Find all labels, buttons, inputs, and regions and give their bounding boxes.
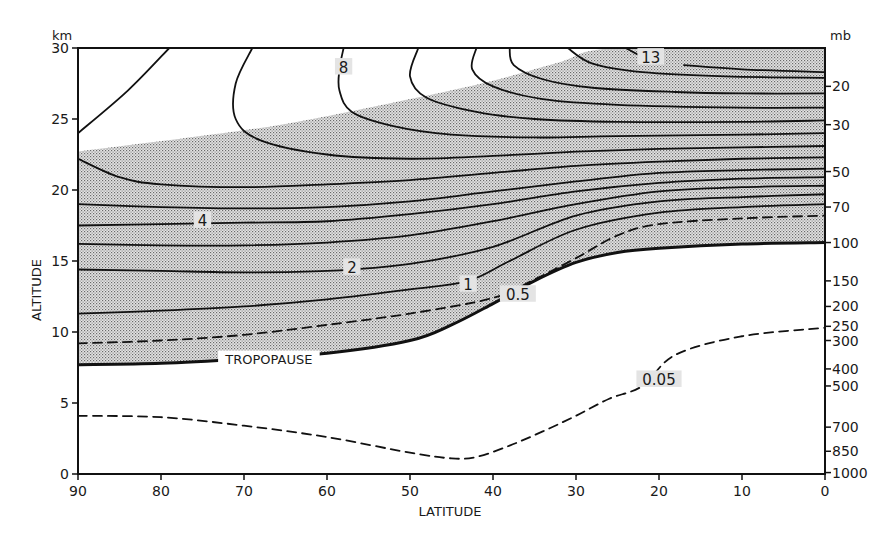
contour-label: 1 bbox=[463, 276, 473, 294]
y-tick-label: 25 bbox=[51, 111, 69, 127]
contour-label: 13 bbox=[641, 49, 660, 67]
mb-tick-label: 150 bbox=[832, 273, 859, 289]
mb-tick-label: 200 bbox=[832, 298, 859, 314]
y-tick-label: 5 bbox=[60, 395, 69, 411]
x-tick-label: 60 bbox=[318, 483, 336, 499]
x-tick-label: 80 bbox=[152, 483, 170, 499]
left-unit-label: km bbox=[52, 28, 72, 43]
mb-tick-label: 70 bbox=[832, 199, 850, 215]
y-axis-title: ALTITUDE bbox=[29, 259, 44, 321]
x-tick-label: 0 bbox=[821, 483, 830, 499]
y-axis-left: 051015202530 bbox=[51, 40, 78, 482]
contour-label: TROPOPAUSE bbox=[224, 352, 312, 367]
x-tick-label: 70 bbox=[235, 483, 253, 499]
x-axis: 9080706050403020100 bbox=[69, 474, 829, 499]
contour-label: 0.05 bbox=[642, 371, 675, 389]
y-tick-label: 15 bbox=[51, 253, 69, 269]
mb-tick-label: 850 bbox=[832, 443, 859, 459]
mb-tick-label: 400 bbox=[832, 361, 859, 377]
mb-tick-label: 100 bbox=[832, 235, 859, 251]
x-tick-label: 30 bbox=[567, 483, 585, 499]
right-unit-label: mb bbox=[830, 28, 851, 43]
x-tick-label: 50 bbox=[401, 483, 419, 499]
contour-edge bbox=[78, 48, 169, 133]
mb-tick-label: 20 bbox=[832, 78, 850, 94]
contour-label: 0.5 bbox=[506, 286, 530, 304]
stipple-region bbox=[78, 47, 825, 365]
contour-label: 8 bbox=[339, 59, 349, 77]
mb-tick-label: 1000 bbox=[832, 465, 868, 481]
y-axis-right: 203050701001502002503004005007008501000 bbox=[825, 78, 868, 480]
contour-label: 2 bbox=[347, 259, 357, 277]
y-tick-label: 10 bbox=[51, 324, 69, 340]
y-tick-label: 0 bbox=[60, 466, 69, 482]
mb-tick-label: 50 bbox=[832, 164, 850, 180]
mb-tick-label: 300 bbox=[832, 333, 859, 349]
y-tick-label: 20 bbox=[51, 182, 69, 198]
x-tick-label: 20 bbox=[650, 483, 668, 499]
x-tick-label: 90 bbox=[69, 483, 87, 499]
mb-tick-label: 500 bbox=[832, 378, 859, 394]
contour-label: 4 bbox=[198, 212, 208, 230]
mb-tick-label: 30 bbox=[832, 117, 850, 133]
stratosphere-shading bbox=[78, 47, 825, 365]
contour-chart: 9080706050403020100 051015202530 2030507… bbox=[0, 0, 888, 547]
x-tick-label: 10 bbox=[733, 483, 751, 499]
x-tick-label: 40 bbox=[484, 483, 502, 499]
mb-tick-label: 700 bbox=[832, 419, 859, 435]
x-axis-title: LATITUDE bbox=[419, 504, 482, 519]
